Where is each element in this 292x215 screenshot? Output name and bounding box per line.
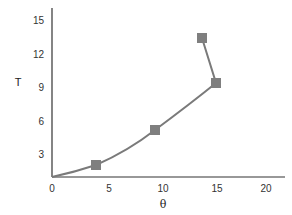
y-tick-3: 3 <box>38 149 44 160</box>
data-point-2 <box>150 125 160 135</box>
y-tick-9: 9 <box>38 82 44 93</box>
series-line <box>52 38 216 177</box>
y-tick-12: 12 <box>33 49 45 60</box>
chart: 3 6 9 12 15 0 5 10 15 20 θ T <box>0 0 292 215</box>
data-point-3 <box>211 78 221 88</box>
x-tick-0: 0 <box>49 183 55 194</box>
y-tick-6: 6 <box>38 116 44 127</box>
data-point-4 <box>197 33 207 43</box>
x-tick-10: 10 <box>157 183 169 194</box>
x-tick-15: 15 <box>211 183 223 194</box>
x-axis-label: θ <box>160 198 167 211</box>
x-tick-20: 20 <box>260 183 272 194</box>
x-tick-5: 5 <box>106 183 112 194</box>
y-tick-15: 15 <box>33 15 45 26</box>
y-axis-label: T <box>15 76 22 88</box>
data-point-1 <box>91 160 101 170</box>
